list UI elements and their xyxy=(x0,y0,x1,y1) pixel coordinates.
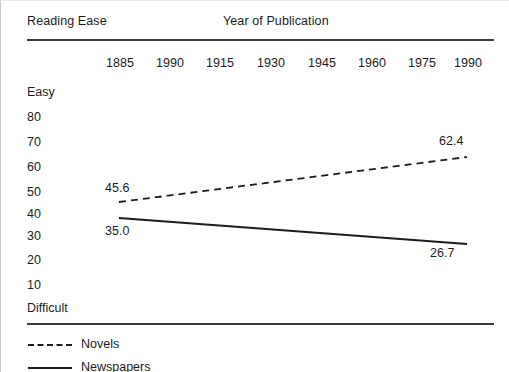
y-tick-20: 20 xyxy=(27,254,41,267)
x-tick-4: 1930 xyxy=(254,57,288,70)
y-tick-40: 40 xyxy=(27,208,41,221)
newspapers-start-value: 35.0 xyxy=(105,225,129,238)
chart-figure: Reading Ease Year of Publication 1885 19… xyxy=(0,0,509,372)
y-tick-easy: Easy xyxy=(27,86,55,99)
y-tick-difficult: Difficult xyxy=(27,302,68,315)
y-tick-70: 70 xyxy=(27,136,41,149)
novels-start-value: 45.6 xyxy=(105,182,129,195)
legend-label-novels: Novels xyxy=(81,338,119,351)
reading-ease-axis-title: Reading Ease xyxy=(27,15,107,28)
top-divider-rule xyxy=(27,39,494,41)
x-tick-8: 1990 xyxy=(451,57,485,70)
newspapers-line xyxy=(119,218,467,244)
x-tick-6: 1960 xyxy=(355,57,389,70)
y-tick-10: 10 xyxy=(27,279,41,292)
y-tick-50: 50 xyxy=(27,186,41,199)
year-of-publication-title: Year of Publication xyxy=(223,15,329,28)
y-tick-30: 30 xyxy=(27,230,41,243)
x-tick-2: 1990 xyxy=(153,57,187,70)
x-tick-7: 1975 xyxy=(405,57,439,70)
novels-end-value: 62.4 xyxy=(439,135,463,148)
legend-dashed-line-swatch-icon xyxy=(28,344,72,346)
legend-label-newspapers: Newspapers xyxy=(81,361,150,372)
legend-solid-line-swatch-icon xyxy=(28,367,72,369)
newspapers-end-value: 26.7 xyxy=(430,247,454,260)
x-tick-5: 1945 xyxy=(305,57,339,70)
y-tick-80: 80 xyxy=(27,111,41,124)
novels-line xyxy=(119,157,467,202)
legend-divider-rule xyxy=(27,323,494,325)
y-tick-60: 60 xyxy=(27,161,41,174)
x-tick-1: 1885 xyxy=(103,57,137,70)
x-tick-3: 1915 xyxy=(203,57,237,70)
